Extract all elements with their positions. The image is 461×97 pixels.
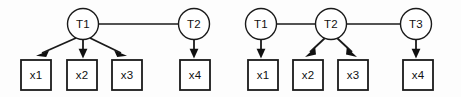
node-right-t1-label: T1	[254, 18, 268, 30]
node-right-x2[interactable]: x2	[293, 60, 323, 90]
node-left-t2-label: T2	[187, 18, 201, 30]
arrow-right-t1-to-x1	[257, 39, 266, 59]
node-right-x3[interactable]: x3	[338, 60, 368, 90]
figure-canvas: T1 T2 x1 x2 x3 x4	[0, 0, 461, 97]
arrow-left-t1-to-x1	[36, 38, 76, 57]
node-left-x1-label: x1	[30, 69, 43, 81]
node-right-x1-label: x1	[257, 69, 270, 81]
node-right-x4[interactable]: x4	[403, 60, 433, 90]
node-left-x4[interactable]: x4	[180, 60, 210, 90]
node-left-t1-label: T1	[76, 18, 90, 30]
node-left-x1[interactable]: x1	[21, 60, 51, 90]
arrowhead-icon	[412, 49, 421, 59]
node-right-x1[interactable]: x1	[248, 60, 278, 90]
left-model-group: T1 T2 x1 x2 x3 x4	[21, 9, 210, 91]
arrow-left-t1-to-x3	[90, 38, 127, 57]
right-model-group: T1 T2 T3 x1 x2 x3	[246, 9, 434, 91]
arrowhead-icon	[79, 49, 88, 59]
arrow-right-t2-to-x3	[337, 38, 357, 57]
node-left-x2[interactable]: x2	[67, 60, 97, 90]
arrow-left-t1-to-x2	[79, 39, 88, 59]
node-right-x4-label: x4	[412, 69, 425, 81]
node-right-x2-label: x2	[302, 69, 315, 81]
node-left-x2-label: x2	[76, 69, 89, 81]
node-right-t2-label: T2	[324, 18, 338, 30]
arrowhead-icon	[257, 49, 266, 59]
node-left-x3[interactable]: x3	[112, 60, 142, 90]
arrowhead-icon	[346, 48, 357, 57]
arrowhead-icon	[190, 49, 199, 59]
node-right-t1[interactable]: T1	[246, 9, 277, 40]
arrowhead-icon	[305, 48, 316, 57]
arrowhead-icon	[36, 51, 49, 57]
arrowhead-icon	[114, 50, 127, 57]
arrow-right-t2-to-x2	[305, 38, 325, 57]
node-right-t3[interactable]: T3	[401, 9, 432, 40]
node-left-x3-label: x3	[121, 69, 134, 81]
node-right-x3-label: x3	[347, 69, 360, 81]
measurement-model-diagram: T1 T2 x1 x2 x3 x4	[0, 0, 461, 97]
node-left-t1[interactable]: T1	[68, 9, 99, 40]
node-left-x4-label: x4	[189, 69, 202, 81]
arrow-right-t3-to-x4	[412, 39, 421, 59]
node-left-t2[interactable]: T2	[179, 9, 210, 40]
node-right-t2[interactable]: T2	[316, 9, 347, 40]
node-right-t3-label: T3	[409, 18, 423, 30]
arrow-left-t2-to-x4	[190, 39, 199, 59]
